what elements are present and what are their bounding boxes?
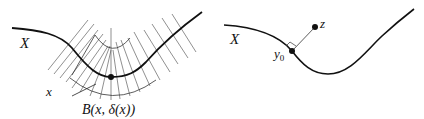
- curve-X-right: [224, 9, 414, 74]
- label-X-right: X: [229, 31, 240, 47]
- point-y0-dot: [289, 48, 295, 54]
- left-figure: X x B(x, δ(x)): [12, 12, 202, 118]
- label-z: z: [319, 16, 325, 31]
- label-x: x: [45, 84, 52, 99]
- label-X-left: X: [19, 35, 30, 51]
- right-figure: X z y0: [224, 9, 414, 74]
- segment-y0-z: [292, 27, 315, 51]
- label-y0: y0: [272, 46, 285, 63]
- point-z-dot: [312, 24, 318, 30]
- label-ball: B(x, δ(x)): [82, 102, 135, 118]
- diagram-canvas: X x B(x, δ(x)) X z y0: [0, 0, 424, 119]
- label-y0-subscript: 0: [280, 53, 285, 63]
- normal-hatch-lines: [48, 14, 196, 100]
- point-x-dot: [108, 74, 114, 80]
